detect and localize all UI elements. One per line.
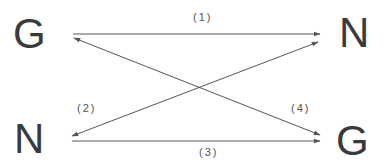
node-top-right-n: N [339, 12, 369, 54]
edge-4-arrow [74, 38, 320, 135]
node-bottom-right-g: G [336, 120, 369, 162]
edge-label-4: (4) [291, 102, 310, 114]
node-bottom-left-n: N [14, 118, 44, 160]
edge-label-2: (2) [77, 102, 96, 114]
edge-label-1: (1) [193, 11, 212, 23]
edges-layer [0, 0, 386, 167]
edge-2-arrow [72, 42, 318, 136]
edge-label-3: (3) [199, 146, 218, 158]
node-top-left-g: G [13, 13, 46, 55]
diagram-canvas: G N N G (1) (2) (3) (4) [0, 0, 386, 167]
